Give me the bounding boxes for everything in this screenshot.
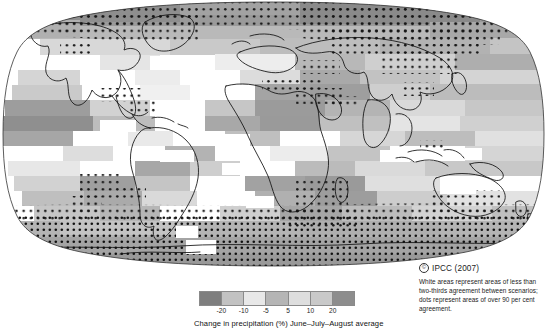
legend-swatch-1 (200, 292, 222, 305)
agreement-note: White areas represent areas of less than… (419, 277, 545, 313)
colorbar-tick-labels: -20 -10 -5 5 10 20 (199, 307, 355, 318)
legend-caption: Change in precipitation (%) June–July–Au… (194, 319, 360, 328)
attribution-block: © IPCC (2007) White areas represent area… (419, 263, 545, 313)
legend: -20 -10 -5 5 10 20 Change in precipitati… (199, 291, 355, 328)
legend-swatch-3 (244, 292, 266, 305)
legend-tick-label: 10 (307, 307, 314, 314)
legend-swatch-7 (333, 292, 354, 305)
legend-tick-label: -5 (263, 307, 269, 314)
legend-swatch-2 (222, 292, 244, 305)
legend-tick-label: 5 (286, 307, 290, 314)
world-map-panel (0, 0, 547, 272)
ipcc-precipitation-change-figure: © IPCC (2007) White areas represent area… (0, 0, 547, 333)
legend-swatch-6 (311, 292, 333, 305)
colorbar (199, 291, 355, 306)
map-raster-layer (0, 0, 547, 272)
legend-swatch-5 (289, 292, 311, 305)
legend-tick-label: -20 (217, 307, 227, 314)
legend-tick-label: -10 (239, 307, 249, 314)
copyright-text: IPCC (2007) (432, 264, 479, 273)
legend-tick-label: 20 (329, 307, 336, 314)
world-map-svg (0, 0, 547, 272)
copyright-line: © IPCC (2007) (419, 263, 545, 273)
legend-swatch-4 (266, 292, 288, 305)
copyright-icon: © (419, 263, 429, 273)
